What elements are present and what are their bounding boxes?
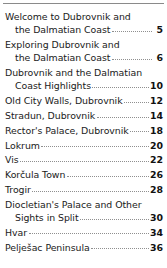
toc-entry[interactable]: Welcome to Dubrovnik andthe Dalmatian Co… [5, 10, 163, 37]
toc-entry-title: Stradun, Dubrovnik [5, 109, 95, 122]
toc-entry-title: Lokrum [5, 139, 40, 152]
toc-page-number: 14 [150, 109, 163, 122]
toc-page-number: 12 [150, 94, 163, 107]
toc-entry[interactable]: Rector's Palace, Dubrovnik18 [5, 124, 163, 137]
toc-entry-title: Exploring Dubrovnik and [5, 38, 120, 51]
toc-entry-title: Sights in Split [15, 211, 79, 224]
dot-leader [112, 24, 152, 33]
toc-entry[interactable]: Korčula Town26 [5, 168, 163, 181]
toc-entry-wrapped-line: Welcome to Dubrovnik and [5, 10, 163, 23]
dot-leader [130, 125, 149, 134]
toc-entry-title: Korčula Town [5, 168, 65, 181]
toc-entry-final-line: Hvar34 [5, 226, 163, 239]
toc-page-number: 22 [150, 153, 163, 166]
dot-leader [97, 110, 149, 119]
toc-entry[interactable]: Trogir28 [5, 183, 163, 196]
toc-entry-final-line: Korčula Town26 [5, 168, 163, 181]
dot-leader [32, 184, 149, 193]
toc-entry-final-line: Lokrum20 [5, 139, 163, 152]
toc-entry-final-line: Rector's Palace, Dubrovnik18 [5, 124, 163, 137]
toc-page-number: 26 [150, 168, 163, 181]
dot-leader [132, 11, 162, 20]
toc-entry-list: Welcome to Dubrovnik andthe Dalmatian Co… [0, 10, 167, 256]
dot-leader [143, 199, 162, 208]
dot-leader [92, 80, 148, 89]
toc-page-number: 18 [150, 124, 163, 137]
toc-entry[interactable]: Vis22 [5, 153, 163, 166]
toc-entry-title: Coast Highlights [15, 79, 91, 92]
dot-leader [112, 52, 152, 61]
toc-entry-title: Hvar [5, 226, 27, 239]
toc-page-number: 28 [150, 183, 163, 196]
toc-entry-final-line: Old City Walls, Dubrovnik12 [5, 94, 163, 107]
toc-page-number: 30 [150, 211, 163, 224]
header-divider-rule [3, 3, 164, 4]
toc-page-number: 34 [150, 226, 163, 239]
toc-page-number: 36 [150, 241, 163, 254]
toc-entry[interactable]: Dubrovnik and the DalmatianCoast Highlig… [5, 66, 163, 93]
toc-entry-wrapped-line: Diocletian's Palace and Other [5, 198, 163, 211]
toc-entry[interactable]: Stradun, Dubrovnik14 [5, 109, 163, 122]
toc-entry-title: Old City Walls, Dubrovnik [5, 94, 123, 107]
toc-entry-final-line: the Dalmatian Coast5 [5, 23, 163, 36]
toc-entry-final-line: Trogir28 [5, 183, 163, 196]
toc-entry-title: the Dalmatian Coast [15, 23, 110, 36]
toc-entry[interactable]: Diocletian's Palace and OtherSights in S… [5, 198, 163, 225]
toc-entry-final-line: Sights in Split30 [5, 211, 163, 224]
toc-entry-final-line: Stradun, Dubrovnik14 [5, 109, 163, 122]
dot-leader [124, 95, 149, 104]
toc-entry[interactable]: Pelješac Peninsula36 [5, 241, 163, 254]
toc-entry-final-line: Vis22 [5, 153, 163, 166]
toc-entry-wrapped-line: Exploring Dubrovnik and [5, 38, 163, 51]
toc-entry-final-line: the Dalmatian Coast6 [5, 51, 163, 64]
toc-page-number: 20 [150, 139, 163, 152]
table-of-contents-page: Welcome to Dubrovnik andthe Dalmatian Co… [0, 0, 167, 268]
toc-entry[interactable]: Lokrum20 [5, 139, 163, 152]
dot-leader [121, 39, 162, 48]
dot-leader [29, 227, 149, 236]
toc-entry-title: Welcome to Dubrovnik and [5, 10, 131, 23]
dot-leader [91, 242, 149, 251]
toc-entry-title: Rector's Palace, Dubrovnik [5, 124, 129, 137]
toc-entry-title: Trogir [5, 183, 31, 196]
toc-page-number: 10 [150, 79, 163, 92]
toc-entry-wrapped-line: Dubrovnik and the Dalmatian [5, 66, 163, 79]
toc-page-number: 5 [153, 23, 163, 36]
toc-entry[interactable]: Hvar34 [5, 226, 163, 239]
dot-leader [20, 154, 149, 163]
dot-leader [80, 212, 149, 221]
toc-entry-title: Vis [5, 153, 19, 166]
toc-entry-final-line: Coast Highlights10 [5, 79, 163, 92]
toc-entry-title: Diocletian's Palace and Other [5, 198, 142, 211]
dot-leader [144, 67, 162, 76]
toc-page-number: 6 [153, 51, 163, 64]
toc-entry[interactable]: Old City Walls, Dubrovnik12 [5, 94, 163, 107]
dot-leader [67, 169, 149, 178]
toc-entry-title: Dubrovnik and the Dalmatian [5, 66, 142, 79]
toc-entry-final-line: Pelješac Peninsula36 [5, 241, 163, 254]
dot-leader [41, 140, 149, 149]
toc-entry-title: Pelješac Peninsula [5, 241, 90, 254]
toc-entry[interactable]: Exploring Dubrovnik andthe Dalmatian Coa… [5, 38, 163, 65]
toc-entry-title: the Dalmatian Coast [15, 51, 110, 64]
